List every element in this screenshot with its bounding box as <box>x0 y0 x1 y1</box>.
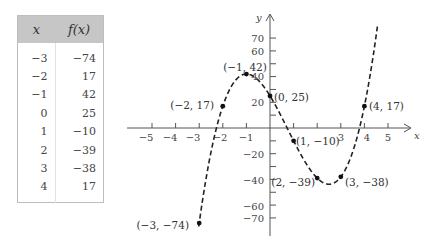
point-label: (3, −38) <box>345 176 389 188</box>
x-tick-label: −1 <box>239 132 254 143</box>
point-label: (1, −10) <box>296 135 340 147</box>
x-tick-label: −5 <box>139 132 154 143</box>
point-label: (2, −39) <box>271 176 315 188</box>
y-tick-label: −20 <box>243 149 264 160</box>
y-tick-label: −40 <box>243 175 264 186</box>
y-tick-label: −60 <box>243 201 264 212</box>
data-point <box>315 176 320 181</box>
x-tick-label: 5 <box>385 132 391 143</box>
x-tick-label: −4 <box>163 132 178 143</box>
y-tick-label: 60 <box>251 46 264 57</box>
y-axis <box>266 14 274 236</box>
x-axis <box>127 124 411 132</box>
point-label: (0, 25) <box>274 91 309 103</box>
x-axis-label: x <box>414 130 420 141</box>
y-tick-label: −70 <box>243 213 264 224</box>
y-axis-label: y <box>255 12 262 23</box>
data-point <box>268 93 273 98</box>
function-curve <box>199 25 378 227</box>
data-point <box>362 104 367 109</box>
data-point <box>338 174 343 179</box>
point-label: (4, 17) <box>369 100 404 112</box>
x-tick-label: −3 <box>186 132 201 143</box>
point-label: (−3, −74) <box>136 219 189 231</box>
point-label: (−2, 17) <box>170 99 214 111</box>
x-tick-labels: −5 −4 −3 −2 −1 3 4 5 <box>139 132 392 143</box>
function-graph: x y −5 −4 −3 −2 −1 3 4 5 70 60 40 20 −20… <box>0 0 437 243</box>
x-tick-label: 4 <box>364 132 370 143</box>
data-point <box>220 104 225 109</box>
point-label: (−1, 42) <box>223 61 267 73</box>
y-tick-label: 20 <box>251 97 264 108</box>
data-point <box>197 221 202 226</box>
y-tick-label: 70 <box>251 33 264 44</box>
